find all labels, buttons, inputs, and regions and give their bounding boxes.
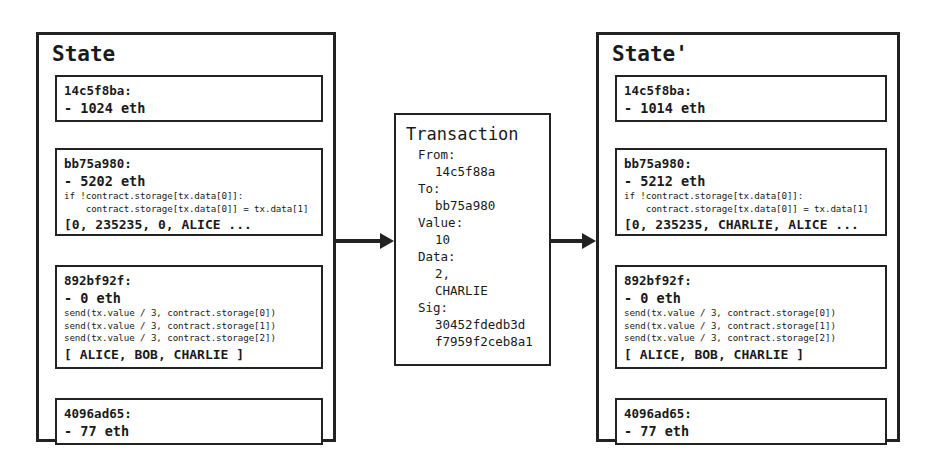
account-balance: - 77 eth (624, 422, 878, 440)
state-before-title: State (52, 41, 115, 67)
account-balance: - 0 eth (64, 289, 314, 307)
transaction-field-value-from: 14c5f88a (406, 163, 549, 180)
account-box-14c5f8ba: 14c5f8ba: - 1014 eth (615, 75, 887, 122)
account-storage: [ ALICE, BOB, CHARLIE ] (624, 345, 878, 364)
transaction-field-label-to: To: (406, 180, 549, 197)
arrow-state-to-transaction-icon (336, 231, 394, 251)
account-code-line: if !contract.storage[tx.data[0]]: (624, 190, 878, 203)
transaction-field-label-from: From: (406, 146, 549, 163)
account-box-892bf92f: 892bf92f: - 0 eth send(tx.value / 3, con… (615, 265, 887, 369)
account-storage: [0, 235235, 0, ALICE ... (64, 215, 314, 234)
account-code-line: send(tx.value / 3, contract.storage[0]) (64, 307, 314, 320)
account-balance: - 1014 eth (624, 99, 878, 117)
transaction-field-label-data: Data: (406, 248, 549, 265)
account-box-4096ad65: 4096ad65: - 77 eth (55, 398, 323, 445)
transaction-title: Transaction (406, 123, 549, 145)
account-box-4096ad65: 4096ad65: - 77 eth (615, 398, 887, 445)
account-address: 892bf92f: (64, 272, 314, 289)
transaction-field-value-data: 2, (406, 265, 549, 282)
transaction-field-label-value: Value: (406, 214, 549, 231)
state-before-panel: State 14c5f8ba: - 1024 eth bb75a980: - 5… (36, 32, 336, 442)
account-address: 892bf92f: (624, 272, 878, 289)
transaction-field-value-sig: f7959f2ceb8a1 (406, 333, 549, 350)
account-code-line: contract.storage[tx.data[0]] = tx.data[1… (64, 203, 314, 216)
account-code-line: if !contract.storage[tx.data[0]]: (64, 190, 314, 203)
transaction-field-value-sig: 30452fdedb3d (406, 316, 549, 333)
account-box-892bf92f: 892bf92f: - 0 eth send(tx.value / 3, con… (55, 265, 323, 369)
account-box-bb75a980: bb75a980: - 5202 eth if !contract.storag… (55, 148, 323, 236)
account-address: 4096ad65: (624, 405, 878, 422)
transaction-box: Transaction From: 14c5f88a To: bb75a980 … (394, 113, 551, 366)
transaction-field-value-value: 10 (406, 231, 549, 248)
account-storage: [ ALICE, BOB, CHARLIE ] (64, 345, 314, 364)
account-balance: - 77 eth (64, 422, 314, 440)
account-code-line: send(tx.value / 3, contract.storage[0]) (624, 307, 878, 320)
state-after-title: State' (612, 41, 688, 67)
account-address: bb75a980: (624, 155, 878, 172)
diagram-canvas: State 14c5f8ba: - 1024 eth bb75a980: - 5… (0, 0, 937, 472)
account-address: bb75a980: (64, 155, 314, 172)
transaction-field-label-sig: Sig: (406, 299, 549, 316)
account-code-line: send(tx.value / 3, contract.storage[2]) (624, 332, 878, 345)
account-balance: - 1024 eth (64, 99, 314, 117)
account-box-bb75a980: bb75a980: - 5212 eth if !contract.storag… (615, 148, 887, 236)
account-code-line: send(tx.value / 3, contract.storage[1]) (64, 320, 314, 333)
transaction-field-value-data: CHARLIE (406, 282, 549, 299)
account-code-line: send(tx.value / 3, contract.storage[2]) (64, 332, 314, 345)
arrow-transaction-to-state-prime-icon (551, 231, 596, 251)
account-storage: [0, 235235, CHARLIE, ALICE ... (624, 215, 878, 234)
account-balance: - 5212 eth (624, 172, 878, 190)
account-balance: - 5202 eth (64, 172, 314, 190)
account-box-14c5f8ba: 14c5f8ba: - 1024 eth (55, 75, 323, 122)
account-address: 14c5f8ba: (64, 82, 314, 99)
account-balance: - 0 eth (624, 289, 878, 307)
transaction-field-value-to: bb75a980 (406, 197, 549, 214)
account-address: 14c5f8ba: (624, 82, 878, 99)
state-after-panel: State' 14c5f8ba: - 1014 eth bb75a980: - … (596, 32, 900, 442)
account-code-line: contract.storage[tx.data[0]] = tx.data[1… (624, 203, 878, 216)
account-address: 4096ad65: (64, 405, 314, 422)
account-code-line: send(tx.value / 3, contract.storage[1]) (624, 320, 878, 333)
